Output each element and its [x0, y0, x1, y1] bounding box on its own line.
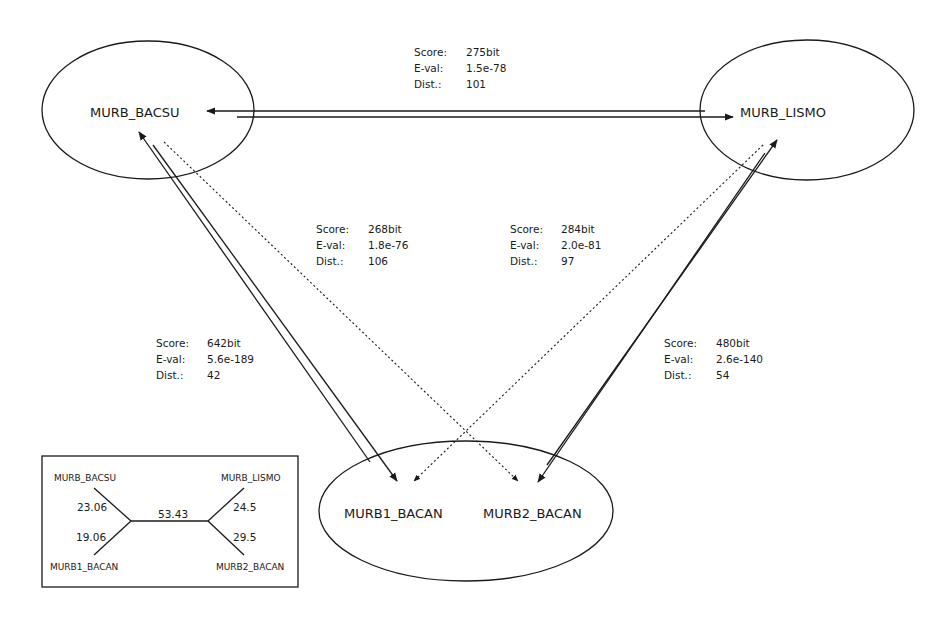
branch-length-top-right: 24.5 [233, 501, 256, 513]
dist-label: Dist.: [510, 255, 537, 267]
tree-leaf-top-left: MURB_BACSU [54, 473, 116, 483]
eval-value: 2.0e-81 [561, 239, 601, 251]
edge-stats-lismo-murb1-bacan: Score: 284bit E-val: 2.0e-81 Dist.: 97 [510, 223, 601, 267]
edge-lismo-murb2-bacan [538, 140, 777, 482]
dist-value: 54 [716, 369, 730, 381]
eval-value: 1.8e-76 [368, 239, 409, 251]
score-label: Score: [156, 337, 189, 349]
eval-label: E-val: [316, 239, 345, 251]
tree-leaf-bottom-left: MURB1_BACAN [50, 562, 118, 572]
dist-label: Dist.: [414, 78, 441, 90]
branch-length-bottom-right: 29.5 [233, 531, 256, 543]
dist-value: 101 [466, 78, 486, 90]
node-label-murb-lismo: MURB_LISMO [740, 105, 826, 120]
dist-value: 106 [368, 255, 388, 267]
edge-stats-bacsu-murb1-bacan: Score: 642bit E-val: 5.6e-189 Dist.: 42 [156, 337, 254, 381]
tree-legend: MURB_BACSU MURB1_BACAN MURB_LISMO MURB2_… [42, 456, 298, 587]
node-label-murb2-bacan: MURB2_BACAN [483, 506, 582, 521]
score-value: 480bit [716, 337, 750, 349]
eval-label: E-val: [664, 353, 693, 365]
tree-leaf-top-right: MURB_LISMO [221, 473, 281, 483]
branch-length-internal: 53.43 [158, 508, 188, 520]
score-value: 642bit [207, 337, 241, 349]
branch-length-top-left: 23.06 [77, 501, 107, 513]
score-label: Score: [664, 337, 697, 349]
tree-leaf-bottom-right: MURB2_BACAN [216, 562, 284, 572]
branch-length-bottom-left: 19.06 [76, 531, 106, 543]
edge-bacsu-lismo [207, 111, 733, 117]
node-label-murb1-bacan: MURB1_BACAN [344, 506, 443, 521]
eval-value: 2.6e-140 [716, 353, 763, 365]
node-label-murb-bacsu: MURB_BACSU [90, 105, 180, 120]
score-value: 268bit [368, 223, 402, 235]
dist-label: Dist.: [664, 369, 691, 381]
score-label: Score: [510, 223, 543, 235]
dist-label: Dist.: [316, 255, 343, 267]
eval-label: E-val: [510, 239, 539, 251]
edge-lismo-murb1-bacan [414, 145, 763, 481]
ortholog-diagram: MURB_BACSU MURB_LISMO MURB1_BACAN MURB2_… [0, 0, 932, 623]
dist-label: Dist.: [156, 369, 183, 381]
edge-bacsu-murb1-bacan [139, 132, 397, 481]
edge-bacsu-murb2-bacan [164, 142, 518, 481]
edge-stats-bacsu-murb2-bacan: Score: 268bit E-val: 1.8e-76 Dist.: 106 [316, 223, 409, 267]
edge-stats-lismo-murb2-bacan: Score: 480bit E-val: 2.6e-140 Dist.: 54 [664, 337, 763, 381]
dist-value: 97 [561, 255, 574, 267]
score-value: 275bit [466, 46, 500, 58]
score-label: Score: [316, 223, 349, 235]
dist-value: 42 [207, 369, 220, 381]
score-value: 284bit [561, 223, 595, 235]
score-label: Score: [414, 46, 447, 58]
edge-stats-bacsu-lismo: Score: 275bit E-val: 1.5e-78 Dist.: 101 [414, 46, 506, 90]
eval-value: 5.6e-189 [207, 353, 254, 365]
eval-label: E-val: [156, 353, 185, 365]
eval-label: E-val: [414, 62, 443, 74]
eval-value: 1.5e-78 [466, 62, 506, 74]
